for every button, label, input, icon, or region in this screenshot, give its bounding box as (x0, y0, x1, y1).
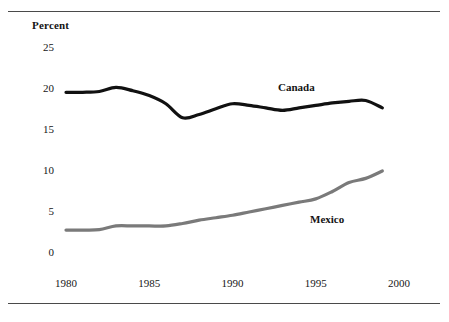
figure-container: Percent 0510152025 19801985199019952000 … (0, 0, 449, 322)
series-label-mexico: Mexico (310, 213, 344, 225)
line-chart-plot-area (0, 0, 449, 322)
series-line-canada (66, 87, 382, 118)
series-label-canada: Canada (278, 81, 315, 93)
